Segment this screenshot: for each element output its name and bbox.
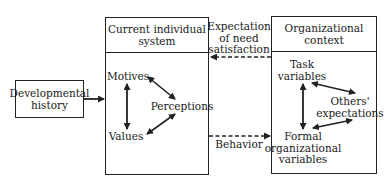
formal-others-arrow <box>313 120 352 128</box>
task-line2: variables <box>278 70 327 82</box>
others-line1: Others' <box>316 96 383 108</box>
motives-label: Motives <box>107 71 149 83</box>
others-line2: expectations <box>316 107 383 119</box>
task-line1: Task <box>278 59 327 71</box>
expectation-label-line3: satisfaction <box>207 44 271 56</box>
motives-perceptions-arrow <box>148 77 175 99</box>
values-label: Values <box>109 131 144 143</box>
behavior-label: Behavior <box>215 139 263 151</box>
task-others-arrow <box>312 83 355 93</box>
expectation-label-line1: Expectation <box>207 21 271 33</box>
perceptions-label: Perceptions <box>151 101 214 113</box>
formal-line1: Formal <box>265 131 342 143</box>
formal-line3: variables <box>265 154 342 166</box>
task-variables-label: Task variables <box>278 59 327 82</box>
expectation-label: Expectation of need satisfaction <box>207 21 271 56</box>
values-perceptions-arrow <box>147 114 175 134</box>
formal-variables-label: Formal organizational variables <box>265 131 342 166</box>
others-expectations-label: Others' expectations <box>316 96 383 119</box>
